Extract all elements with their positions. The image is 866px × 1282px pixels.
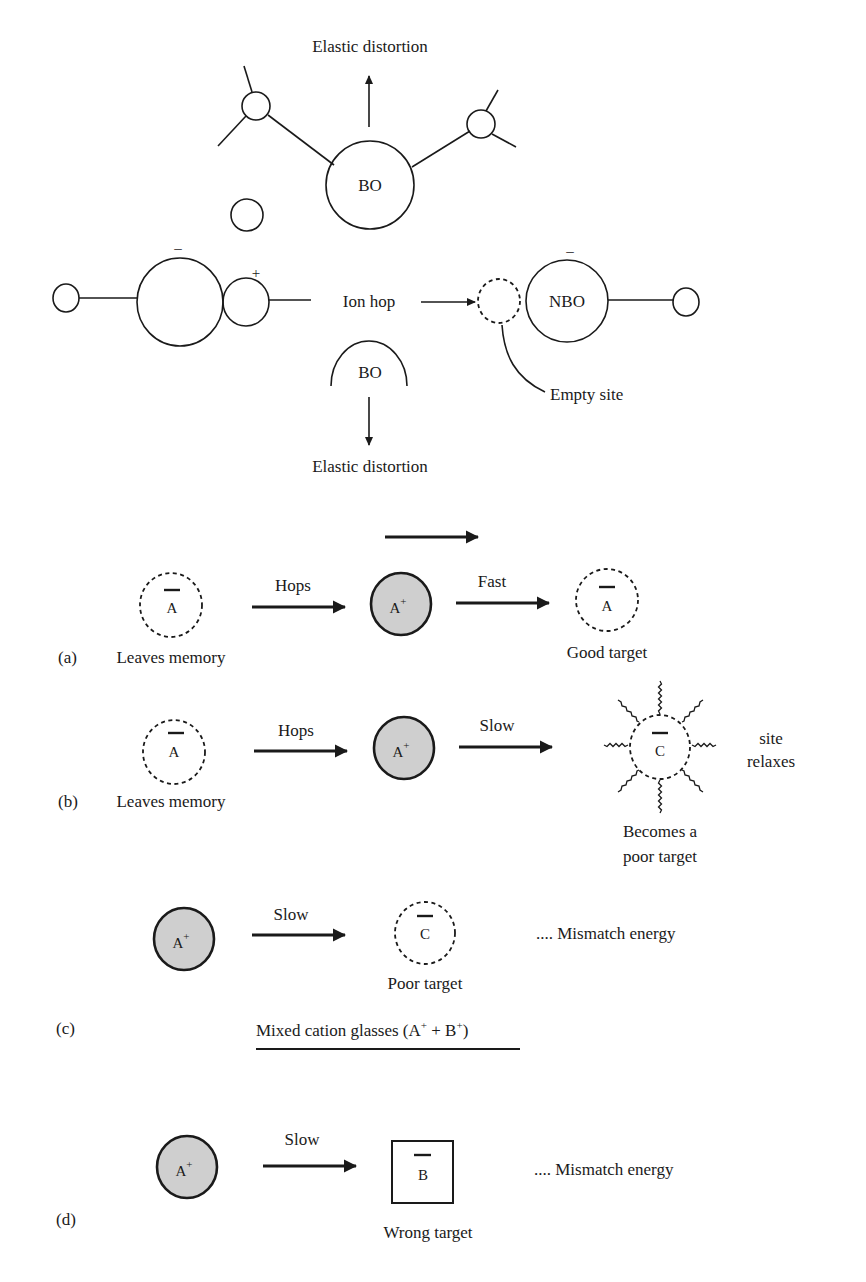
poor-target-label: Poor target (388, 974, 463, 993)
becomes-poor-target-line1: Becomes a (623, 822, 698, 841)
network-atom-left (242, 92, 270, 120)
site-b-label: A (169, 744, 180, 760)
bond-line (486, 90, 498, 111)
panel-a-tag: (a) (58, 648, 77, 667)
hops-label: Hops (275, 576, 311, 595)
fast-label: Fast (478, 572, 507, 591)
terminal-atom-right (673, 288, 699, 316)
ion-hop-label: Ion hop (343, 292, 395, 311)
site-c-label: C (655, 743, 665, 759)
panel-d-tag: (d) (56, 1210, 76, 1229)
glass-network-diagram: Elastic distortion BO – + Ion hop – NBO … (53, 37, 699, 476)
bo-bottom-label: BO (358, 363, 382, 382)
network-atom-right (467, 110, 495, 138)
bo-top-label: BO (358, 176, 382, 195)
panel-d: A+ Slow B Wrong target .... Mismatch ene… (56, 1130, 674, 1242)
target-site-label: A (602, 598, 613, 614)
site-relaxes-line2: relaxes (747, 752, 795, 771)
ion-hopping-diagram: Elastic distortion BO – + Ion hop – NBO … (0, 0, 866, 1282)
nonbridging-oxygen-left (137, 258, 223, 346)
site-c-label: C (420, 926, 430, 942)
empty-site-circle (478, 279, 520, 323)
mixed-cation-title: Mixed cation glasses (A+ + B+) (256, 1019, 468, 1040)
slow-label: Slow (285, 1130, 321, 1149)
terminal-atom-left (53, 284, 79, 312)
leaves-memory-label: Leaves memory (116, 792, 226, 811)
nbo-label: NBO (549, 292, 585, 311)
minus-charge-left: – (173, 240, 182, 256)
cation (223, 278, 269, 326)
bond-line (412, 131, 470, 167)
elastic-distortion-top-label: Elastic distortion (312, 37, 428, 56)
site-b-label: B (418, 1167, 428, 1183)
site-relaxes-line1: site (759, 729, 783, 748)
site-a-label: A (167, 600, 178, 616)
panel-b: A (b) Leaves memory Hops A+ Slow C site … (58, 681, 795, 866)
mismatch-energy-note: .... Mismatch energy (536, 924, 676, 943)
good-target-label: Good target (567, 643, 648, 662)
bond-line (268, 115, 334, 165)
empty-site-label: Empty site (550, 385, 623, 404)
wrong-target-label: Wrong target (383, 1223, 472, 1242)
panel-b-tag: (b) (58, 792, 78, 811)
mismatch-energy-note: .... Mismatch energy (534, 1160, 674, 1179)
hops-label: Hops (278, 721, 314, 740)
bond-line (218, 116, 246, 146)
minus-charge-right: – (565, 243, 574, 259)
slow-label: Slow (274, 905, 310, 924)
bond-line (492, 134, 516, 147)
elastic-distortion-bottom-label: Elastic distortion (312, 457, 428, 476)
panel-c-tag: (c) (56, 1019, 75, 1038)
slow-label: Slow (480, 716, 516, 735)
leader-line (502, 325, 545, 392)
bond-line (244, 66, 252, 92)
becomes-poor-target-line2: poor target (623, 847, 697, 866)
panel-a: A (a) Leaves memory Hops A+ Fast A Good … (58, 569, 647, 667)
panel-c: A+ Slow C Poor target .... Mismatch ener… (56, 902, 676, 1038)
leaves-memory-label: Leaves memory (116, 648, 226, 667)
isolated-atom (231, 199, 263, 231)
